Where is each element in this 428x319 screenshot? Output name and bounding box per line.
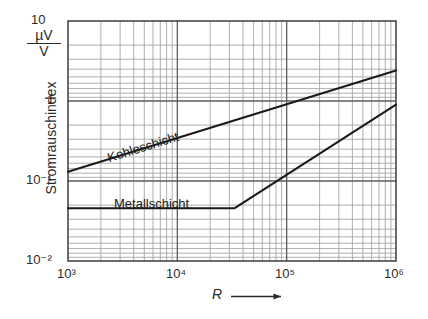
- x-tick-label-1e6: 10⁶: [384, 266, 404, 281]
- x-axis-arrow-icon: [231, 294, 281, 300]
- y-axis-title: Stromrauschindex: [43, 38, 59, 238]
- y-tick-label-0_01: 10⁻²: [26, 252, 52, 267]
- plot-frame: [68, 21, 396, 261]
- y-tick-label-1: 1: [47, 92, 54, 107]
- x-tick-label-1e5: 10⁵: [275, 266, 295, 281]
- grid-major: [68, 21, 396, 261]
- x-tick-label-1e3: 10³: [57, 266, 76, 281]
- y-tick-label-10: 10: [31, 12, 45, 27]
- y-tick-label-0_1: 10⁻¹: [26, 172, 52, 187]
- series-label-metallschicht: Metallschicht: [114, 196, 189, 211]
- chart-figure: µV V Stromrauschindex 10 1 10⁻¹ 10⁻² 10³…: [0, 0, 428, 319]
- x-axis-title: R: [212, 286, 222, 302]
- x-tick-label-1e4: 10⁴: [166, 266, 186, 281]
